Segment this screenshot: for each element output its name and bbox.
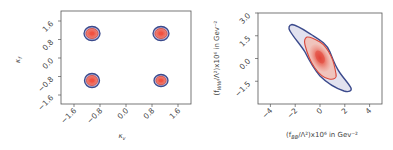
right-xtick-label: −2	[285, 106, 299, 120]
contour-blob-top-left	[84, 27, 100, 41]
left-ytick-label: −1.6	[36, 93, 55, 112]
right-xtick-label: 4	[364, 106, 374, 116]
contour-blob-bottom-right	[154, 75, 168, 87]
contour-blob-bottom-left	[85, 74, 100, 88]
right-y-ticks	[255, 13, 258, 81]
right-x-ticks	[270, 104, 369, 107]
left-ytick-label: 1.6	[41, 19, 56, 34]
left-ylabel: κf	[14, 56, 23, 63]
left-ytick-label: −0.8	[36, 74, 55, 93]
left-xtick-label: 0.0	[116, 106, 131, 121]
left-xtick-label: 1.6	[168, 106, 183, 121]
left-xlabel: κv	[118, 132, 126, 141]
left-y-ticks	[58, 21, 61, 95]
left-xtick-label: 0.8	[142, 106, 157, 121]
contour-blob-top-right	[153, 27, 169, 41]
left-plot: 1.6 0.8 0.0 −0.8 −1.6 −1.6 −0.8 0.0 0.8 …	[14, 11, 191, 141]
right-ytick-label: 1.5	[238, 34, 253, 49]
right-xtick-label: 2	[340, 106, 350, 116]
left-ytick-label: 0.8	[41, 37, 56, 52]
right-ytick-label: 0.0	[238, 56, 253, 71]
right-ytick-label: 3.0	[238, 11, 253, 26]
right-ytick-label: −1.5	[233, 79, 252, 98]
right-ylabel: (fWW/Λ²)x10⁶ in Gev⁻²	[213, 20, 222, 95]
right-xlabel: (fBB/Λ²)x10⁶ in Gev⁻²	[286, 131, 358, 140]
left-x-ticks	[74, 104, 178, 107]
left-xtick-label: −1.6	[59, 106, 78, 125]
right-xtick-label: 0	[315, 106, 325, 116]
left-ytick-label: 0.0	[41, 56, 56, 71]
right-plot: 3.0 1.5 0.0 −1.5 −4 −2 0 2 4 (fBB/Λ²)x10…	[213, 11, 382, 140]
figure: 1.6 0.8 0.0 −0.8 −1.6 −1.6 −0.8 0.0 0.8 …	[0, 0, 393, 150]
left-plot-frame	[61, 11, 191, 104]
right-xtick-label: −4	[260, 106, 274, 120]
left-xtick-label: −0.8	[85, 106, 104, 125]
